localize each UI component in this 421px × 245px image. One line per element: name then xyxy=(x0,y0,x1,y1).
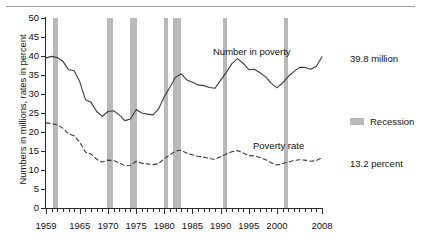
y-tick-label: 50 xyxy=(17,13,39,23)
x-tick-mark-minor xyxy=(181,209,182,212)
y-tick-mark xyxy=(41,208,45,209)
x-tick-mark-minor xyxy=(198,209,199,212)
x-tick-mark-minor xyxy=(271,209,272,212)
y-tick-mark xyxy=(41,189,45,190)
x-tick-mark-minor xyxy=(316,209,317,212)
x-tick-mark-minor xyxy=(57,209,58,212)
x-tick-mark-minor xyxy=(260,209,261,212)
y-tick-label: 35 xyxy=(17,70,39,80)
x-tick-mark-minor xyxy=(159,209,160,212)
x-tick-mark-minor xyxy=(283,209,284,212)
x-tick-mark-minor xyxy=(85,209,86,212)
x-tick-mark-major xyxy=(136,209,137,214)
y-tick-mark xyxy=(41,37,45,38)
x-tick-mark-minor xyxy=(187,209,188,212)
y-tick-mark xyxy=(41,18,45,19)
x-tick-mark-major xyxy=(164,209,165,214)
x-tick-mark-minor xyxy=(63,209,64,212)
x-tick-mark-major xyxy=(108,209,109,214)
y-tick-mark xyxy=(41,132,45,133)
x-tick-mark-minor xyxy=(176,209,177,212)
x-tick-mark-minor xyxy=(288,209,289,212)
x-tick-label: 2008 xyxy=(302,221,342,231)
y-tick-mark xyxy=(41,56,45,57)
x-axis-line xyxy=(45,208,323,209)
y-tick-mark xyxy=(41,75,45,76)
x-tick-mark-minor xyxy=(305,209,306,212)
annotation-number-in-poverty: Number in poverty xyxy=(213,46,291,57)
x-tick-mark-major xyxy=(277,209,278,214)
x-tick-mark-minor xyxy=(102,209,103,212)
x-tick-mark-minor xyxy=(266,209,267,212)
x-tick-label: 2000 xyxy=(257,221,297,231)
x-tick-mark-major xyxy=(192,209,193,214)
x-tick-mark-minor xyxy=(238,209,239,212)
series-line-number-in-poverty xyxy=(46,56,322,120)
x-tick-mark-major xyxy=(249,209,250,214)
top-divider xyxy=(6,6,415,7)
y-tick-label: 30 xyxy=(17,89,39,99)
x-tick-mark-minor xyxy=(74,209,75,212)
x-tick-mark-major xyxy=(80,209,81,214)
x-tick-mark-minor xyxy=(243,209,244,212)
x-tick-mark-minor xyxy=(209,209,210,212)
legend-label-recession: Recession xyxy=(370,116,414,127)
x-tick-mark-minor xyxy=(125,209,126,212)
y-tick-label: 45 xyxy=(17,32,39,42)
x-tick-mark-minor xyxy=(226,209,227,212)
x-tick-mark-minor xyxy=(170,209,171,212)
x-tick-mark-minor xyxy=(299,209,300,212)
x-tick-mark-minor xyxy=(311,209,312,212)
y-tick-mark xyxy=(41,94,45,95)
x-tick-mark-minor xyxy=(114,209,115,212)
x-tick-mark-minor xyxy=(97,209,98,212)
end-label-number-in-poverty: 39.8 million xyxy=(350,53,398,64)
x-tick-mark-minor xyxy=(130,209,131,212)
end-label-poverty-rate: 13.2 percent xyxy=(350,158,403,169)
y-tick-label: 25 xyxy=(17,108,39,118)
x-tick-mark-major xyxy=(221,209,222,214)
annotation-poverty-rate: Poverty rate xyxy=(253,140,304,151)
x-tick-mark-minor xyxy=(119,209,120,212)
y-tick-label: 10 xyxy=(17,165,39,175)
y-tick-label: 15 xyxy=(17,146,39,156)
y-tick-label: 40 xyxy=(17,51,39,61)
legend-swatch-recession xyxy=(350,118,364,125)
x-tick-mark-minor xyxy=(91,209,92,212)
x-tick-mark-minor xyxy=(147,209,148,212)
x-tick-mark-minor xyxy=(204,209,205,212)
y-tick-label: 0 xyxy=(17,203,39,213)
chart-root: Numbers in millions, rates in percent 05… xyxy=(0,0,421,245)
x-tick-mark-minor xyxy=(215,209,216,212)
x-tick-mark-major xyxy=(46,209,47,214)
x-tick-mark-minor xyxy=(294,209,295,212)
x-tick-mark-major xyxy=(322,209,323,214)
x-tick-mark-minor xyxy=(142,209,143,212)
y-tick-mark xyxy=(41,170,45,171)
x-tick-mark-minor xyxy=(153,209,154,212)
y-tick-mark xyxy=(41,151,45,152)
x-tick-mark-minor xyxy=(52,209,53,212)
y-tick-label: 20 xyxy=(17,127,39,137)
y-tick-mark xyxy=(41,113,45,114)
x-tick-mark-minor xyxy=(232,209,233,212)
x-tick-mark-minor xyxy=(69,209,70,212)
x-tick-mark-minor xyxy=(254,209,255,212)
y-tick-label: 5 xyxy=(17,184,39,194)
